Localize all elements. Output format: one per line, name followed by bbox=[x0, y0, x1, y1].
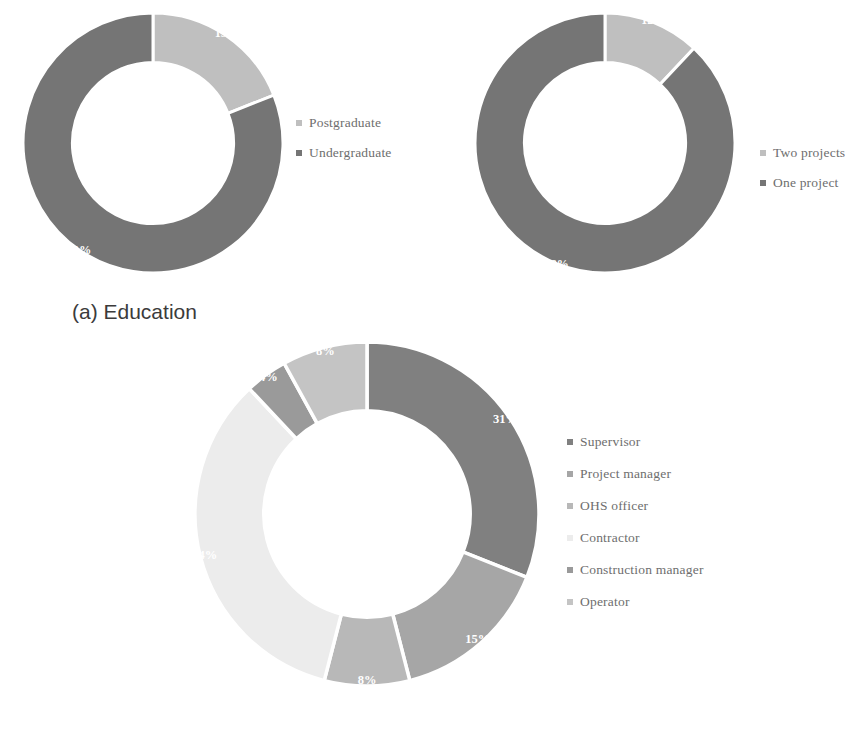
legend-swatch-icon bbox=[567, 535, 573, 541]
donut-slice[interactable] bbox=[153, 13, 274, 113]
slice-percentage-label: 15% bbox=[465, 632, 490, 646]
slice-percentage-label: 81% bbox=[67, 243, 91, 257]
slice-percentage-label: 8% bbox=[358, 673, 377, 687]
legend-item-label: Undergraduate bbox=[309, 146, 392, 160]
slice-percentage-label: 34% bbox=[192, 548, 217, 562]
legend-swatch-icon bbox=[567, 567, 573, 573]
legend-item-label: Contractor bbox=[580, 531, 640, 545]
education-donut-svg: 19%81% bbox=[18, 8, 288, 278]
legend-item[interactable]: One project bbox=[760, 168, 845, 198]
legend-item[interactable]: OHS officer bbox=[567, 490, 704, 522]
legend-swatch-icon bbox=[567, 471, 573, 477]
slice-percentage-label: 31% bbox=[493, 412, 518, 426]
legend-item-label: One project bbox=[773, 176, 839, 190]
donut-slice[interactable] bbox=[195, 389, 341, 681]
legend-item[interactable]: Contractor bbox=[567, 522, 704, 554]
legend-item[interactable]: Supervisor bbox=[567, 426, 704, 458]
legend-item[interactable]: Project manager bbox=[567, 458, 704, 490]
legend-item[interactable]: Two projects bbox=[760, 138, 845, 168]
legend-item-label: Project manager bbox=[580, 467, 671, 481]
legend-item-label: Operator bbox=[580, 595, 630, 609]
legend-item[interactable]: Postgraduate bbox=[296, 108, 392, 138]
legend-item[interactable]: Undergraduate bbox=[296, 138, 392, 168]
occupation-donut-svg: 31%15%8%34%4%8% bbox=[187, 334, 547, 694]
legend-no-of-projects: Two projects One project bbox=[760, 138, 845, 198]
slice-percentage-label: 12% bbox=[641, 13, 665, 27]
donut-chart-no-of-projects: 12%88% bbox=[470, 8, 740, 278]
legend-swatch-icon bbox=[760, 180, 766, 186]
no-of-projects-donut-svg: 12%88% bbox=[470, 8, 740, 278]
legend-swatch-icon bbox=[567, 439, 573, 445]
donut-chart-education: 19%81% bbox=[18, 8, 288, 278]
legend-item[interactable]: Construction manager bbox=[567, 554, 704, 586]
legend-swatch-icon bbox=[567, 599, 573, 605]
slice-percentage-label: 4% bbox=[259, 370, 278, 384]
legend-item-label: Two projects bbox=[773, 146, 845, 160]
legend-swatch-icon bbox=[296, 150, 302, 156]
legend-swatch-icon bbox=[567, 503, 573, 509]
slice-percentage-label: 88% bbox=[545, 257, 569, 271]
donut-chart-occupation: 31%15%8%34%4%8% bbox=[187, 334, 547, 694]
panel-education: 19%81% Postgraduate Undergraduate (a) Ed… bbox=[0, 0, 430, 340]
legend-item[interactable]: Operator bbox=[567, 586, 704, 618]
legend-occupation: Supervisor Project manager OHS officer C… bbox=[567, 426, 704, 618]
donut-slice[interactable] bbox=[475, 13, 735, 273]
legend-item-label: Postgraduate bbox=[309, 116, 381, 130]
slice-percentage-label: 19% bbox=[215, 26, 239, 40]
legend-item-label: Construction manager bbox=[580, 563, 704, 577]
donut-slice[interactable] bbox=[393, 552, 527, 681]
legend-swatch-icon bbox=[296, 120, 302, 126]
figure-root: 19%81% Postgraduate Undergraduate (a) Ed… bbox=[0, 0, 860, 734]
legend-item-label: OHS officer bbox=[580, 499, 648, 513]
legend-swatch-icon bbox=[760, 150, 766, 156]
donut-slice[interactable] bbox=[367, 342, 539, 577]
slice-percentage-label: 8% bbox=[316, 344, 335, 358]
legend-education: Postgraduate Undergraduate bbox=[296, 108, 392, 168]
panel-no-of-projects: 12%88% Two projects One project (b) No. … bbox=[430, 0, 860, 340]
panel-occupation: 31%15%8%34%4%8% Supervisor Project manag… bbox=[175, 328, 795, 734]
panel-caption-education: (a) Education bbox=[72, 300, 197, 324]
legend-item-label: Supervisor bbox=[580, 435, 641, 449]
